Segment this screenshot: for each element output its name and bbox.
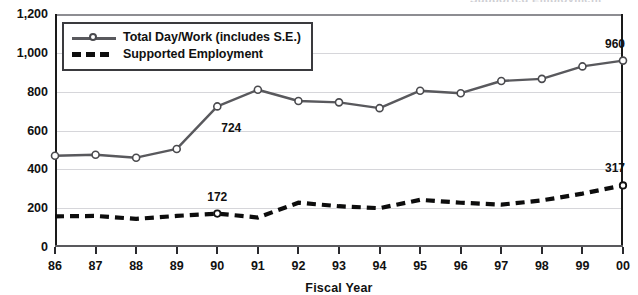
data-point-marker [92,151,99,158]
data-point-marker [417,87,424,94]
x-axis-tick [460,247,462,254]
x-axis-tick-label: 98 [527,259,557,273]
y-axis-tick-label: 0 [2,240,48,254]
x-axis-tick-label: 94 [365,259,395,273]
x-axis-tick-label: 92 [283,259,313,273]
series-line-2 [55,185,623,218]
x-axis-tick [95,247,97,254]
data-point-marker [214,210,220,216]
x-axis-tick-label: 89 [162,259,192,273]
x-axis-tick [581,247,583,254]
x-axis-tick-label: 90 [202,259,232,273]
x-axis-tick [297,247,299,254]
x-axis-tick-label: 88 [121,259,151,273]
x-axis-tick-label: 86 [40,259,70,273]
data-point-value-label: 172 [207,190,227,204]
legend-item-supported-employment: Supported Employment [72,46,301,63]
x-axis-tick [176,247,178,254]
x-axis-title: Fiscal Year [55,281,623,295]
x-axis-tick [541,247,543,254]
legend-item-total-day-work: Total Day/Work (includes S.E.) [72,29,301,46]
data-point-marker [52,152,59,159]
x-axis-tick [622,247,624,254]
data-point-value-label: 960 [605,37,625,51]
data-point-marker [133,154,140,161]
cut-off-title-fragment: Supported Employment [470,0,602,2]
x-axis-tick-label: 97 [486,259,516,273]
x-axis-tick [257,247,259,254]
y-axis-tick-label: 1,200 [2,7,48,21]
data-point-marker [620,57,627,64]
data-point-marker [498,77,505,84]
data-point-marker [295,97,302,104]
x-axis-tick-label: 96 [446,259,476,273]
data-point-marker [620,182,626,188]
x-axis-tick [216,247,218,254]
line-marker-key-icon [72,31,116,44]
y-axis-tick-label: 1,000 [2,46,48,60]
chart-legend: Total Day/Work (includes S.E.) Supported… [62,22,313,71]
x-axis-tick [419,247,421,254]
legend-label-total-day-work: Total Day/Work (includes S.E.) [123,30,301,45]
y-axis-tick-label: 200 [2,201,48,215]
y-axis-tick-label: 800 [2,85,48,99]
x-axis-tick [338,247,340,254]
data-point-marker [457,90,464,97]
y-axis-tick-label: 400 [2,162,48,176]
x-axis-tick-label: 99 [567,259,597,273]
x-axis-tick [500,247,502,254]
x-axis-tick [135,247,137,254]
y-axis-tick-label: 600 [2,124,48,138]
x-axis-tick-label: 95 [405,259,435,273]
series-line-1 [55,61,623,158]
legend-label-supported-employment: Supported Employment [123,47,263,62]
x-axis-tick-label: 93 [324,259,354,273]
x-axis-tick-label: 00 [608,259,638,273]
x-axis-tick [54,247,56,254]
data-point-marker [376,105,383,112]
x-axis-tick-label: 91 [243,259,273,273]
x-axis-tick [379,247,381,254]
data-point-marker [254,86,261,93]
data-point-marker [214,103,221,110]
data-point-value-label: 724 [221,121,241,135]
x-axis-tick-label: 87 [81,259,111,273]
data-point-marker [538,75,545,82]
data-point-marker [173,145,180,152]
data-point-marker [336,99,343,106]
data-point-value-label: 317 [605,161,625,175]
data-point-marker [579,63,586,70]
dashed-line-key-icon [72,48,116,61]
